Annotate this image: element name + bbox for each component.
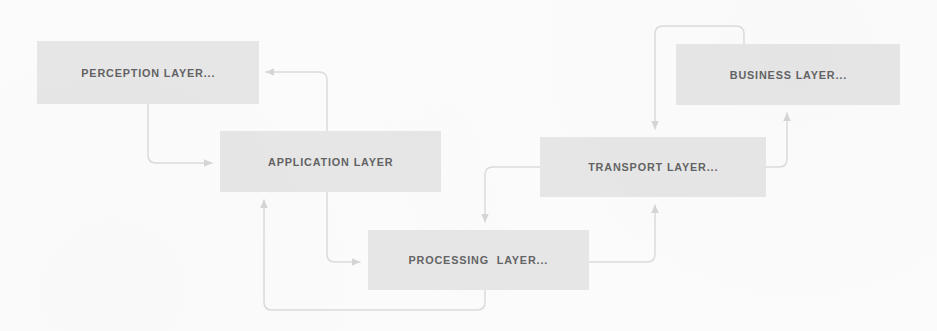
node-label-processing: PROCESSING LAYER... xyxy=(409,254,549,266)
node-label-application: APPLICATION LAYER xyxy=(268,156,394,168)
edge-processing-to-transport xyxy=(589,205,655,262)
edge-application-to-perception xyxy=(266,72,327,131)
edge-application-to-processing xyxy=(327,192,360,262)
edge-transport-to-processing xyxy=(485,167,540,222)
diagram-canvas: PERCEPTION LAYER...APPLICATION LAYERPROC… xyxy=(0,0,937,331)
node-label-business: BUSINESS LAYER... xyxy=(729,69,846,81)
node-label-transport: TRANSPORT LAYER... xyxy=(588,161,718,173)
node-processing[interactable]: PROCESSING LAYER... xyxy=(368,230,589,290)
node-label-perception: PERCEPTION LAYER... xyxy=(81,67,215,79)
edge-perception-to-application xyxy=(148,104,212,163)
node-transport[interactable]: TRANSPORT LAYER... xyxy=(540,137,766,197)
node-business[interactable]: BUSINESS LAYER... xyxy=(676,44,900,105)
node-application[interactable]: APPLICATION LAYER xyxy=(220,131,441,192)
edge-transport-to-business xyxy=(766,113,787,167)
node-perception[interactable]: PERCEPTION LAYER... xyxy=(37,41,259,104)
